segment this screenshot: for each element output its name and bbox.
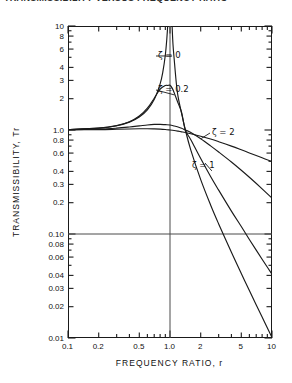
annotation-zeta-0: ζ = 0: [158, 50, 181, 60]
annotation-zeta-0p2: ζ = 0.2: [158, 84, 189, 94]
y-axis-title: TRANSMISSIBILITY, Tr: [11, 126, 21, 236]
x-axis-title: FREQUENCY RATIO, r: [68, 358, 272, 368]
annotation-zeta-2: ζ = 2: [212, 127, 235, 137]
transmissibility-figure: TRANSMISSIBILITY VERSUS FREQUENCY RATIO …: [0, 0, 292, 383]
leader-lines: [0, 0, 292, 383]
annotation-zeta-1: ζ = 1: [192, 160, 215, 170]
leader-line-2: [201, 133, 210, 138]
